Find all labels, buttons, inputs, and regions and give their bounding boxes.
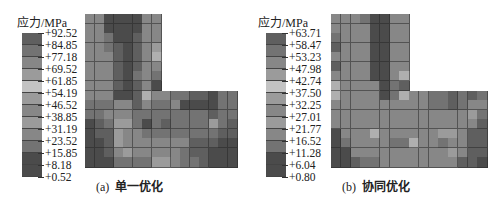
mesh-cell — [228, 157, 238, 167]
mesh-cell — [429, 119, 439, 129]
colorbar-band — [266, 141, 286, 153]
mesh-cell — [380, 148, 390, 158]
colorbar-band — [22, 33, 42, 45]
colorbar-tick-label: +69.52 — [45, 63, 77, 75]
mesh-cell — [123, 71, 133, 81]
mesh-cell — [114, 24, 124, 34]
colorbar-tick-label: +54.19 — [45, 87, 77, 99]
colorbar-tick-label: +0.52 — [45, 171, 72, 183]
mesh-cell — [380, 138, 390, 148]
mesh-cell — [142, 148, 152, 158]
mesh-cell — [152, 110, 162, 120]
mesh-cell — [390, 43, 400, 53]
mesh-cell — [458, 129, 468, 139]
mesh-cell — [438, 138, 448, 148]
mesh-cell — [429, 129, 439, 139]
mesh-cell — [341, 119, 351, 129]
colorbar-band — [266, 69, 286, 81]
mesh-cell — [438, 119, 448, 129]
mesh-cell — [390, 148, 400, 158]
mesh-cell — [380, 14, 390, 24]
mesh-cell — [152, 24, 162, 34]
mesh-cell — [85, 71, 95, 81]
mesh-cell — [133, 148, 143, 158]
colorbar-tick-label: +46.52 — [45, 99, 77, 111]
mesh-cell — [331, 52, 341, 62]
mesh-cell — [152, 100, 162, 110]
mesh-cell — [351, 62, 361, 72]
mesh-cell — [370, 148, 380, 158]
mesh-cell — [380, 43, 390, 53]
mesh-cell — [360, 33, 370, 43]
mesh-cell — [390, 138, 400, 148]
mesh-cell — [85, 14, 95, 24]
mesh-cell — [341, 100, 351, 110]
mesh-cell — [370, 91, 380, 101]
mesh-cell — [380, 110, 390, 120]
mesh-cell — [114, 119, 124, 129]
mesh-cell — [228, 100, 238, 110]
mesh-cell — [199, 138, 209, 148]
mesh-cell — [331, 100, 341, 110]
mesh-cell — [370, 100, 380, 110]
mesh-cell — [341, 14, 351, 24]
colorbar-band — [266, 57, 286, 69]
mesh-cell — [458, 100, 468, 110]
mesh-cell — [331, 24, 341, 34]
mesh-cell — [390, 62, 400, 72]
mesh-cell — [399, 110, 409, 120]
mesh-cell — [390, 71, 400, 81]
mesh-cell — [399, 71, 409, 81]
mesh-cell — [218, 148, 228, 158]
mesh-cell — [228, 148, 238, 158]
mesh-cell — [228, 110, 238, 120]
mesh-cell — [477, 148, 487, 158]
colorbar-band — [266, 33, 286, 45]
colorbar-tick-label: +63.71 — [289, 27, 321, 39]
mesh-cell — [351, 138, 361, 148]
mesh-cell — [399, 81, 409, 91]
mesh-cell — [142, 62, 152, 72]
mesh-cell — [133, 33, 143, 43]
mesh-cell — [477, 119, 487, 129]
mesh-cell — [171, 157, 181, 167]
mesh-cell — [114, 138, 124, 148]
mesh-cell — [331, 91, 341, 101]
mesh-cell — [409, 129, 419, 139]
mesh-cell — [95, 52, 105, 62]
mesh-cell — [95, 62, 105, 72]
mesh-cell — [370, 138, 380, 148]
mesh-cell — [133, 24, 143, 34]
mesh-cell — [409, 157, 419, 167]
mesh-cell — [114, 33, 124, 43]
mesh-cell — [409, 119, 419, 129]
mesh-cell — [360, 110, 370, 120]
mesh-cell — [114, 91, 124, 101]
mesh-cell — [142, 24, 152, 34]
mesh-cell — [409, 91, 419, 101]
mesh-cell — [85, 157, 95, 167]
mesh-cell — [133, 157, 143, 167]
mesh-cell — [360, 91, 370, 101]
mesh-cell — [331, 43, 341, 53]
mesh-cell — [133, 100, 143, 110]
mesh-cell — [85, 129, 95, 139]
mesh-cell — [180, 148, 190, 158]
mesh-cell — [399, 148, 409, 158]
mesh-cell — [448, 110, 458, 120]
mesh-cell — [370, 110, 380, 120]
mesh-cell — [218, 91, 228, 101]
mesh-cell — [370, 81, 380, 91]
mesh-cell — [341, 71, 351, 81]
mesh-cell — [180, 157, 190, 167]
mesh-cell — [104, 100, 114, 110]
mesh-cell — [399, 129, 409, 139]
mesh-cell — [95, 91, 105, 101]
mesh-cell — [218, 110, 228, 120]
mesh-cell — [341, 91, 351, 101]
mesh-cell — [380, 157, 390, 167]
mesh-cell — [190, 110, 200, 120]
mesh-cell — [399, 100, 409, 110]
colorbar-band — [22, 141, 42, 153]
mesh-cell — [190, 100, 200, 110]
